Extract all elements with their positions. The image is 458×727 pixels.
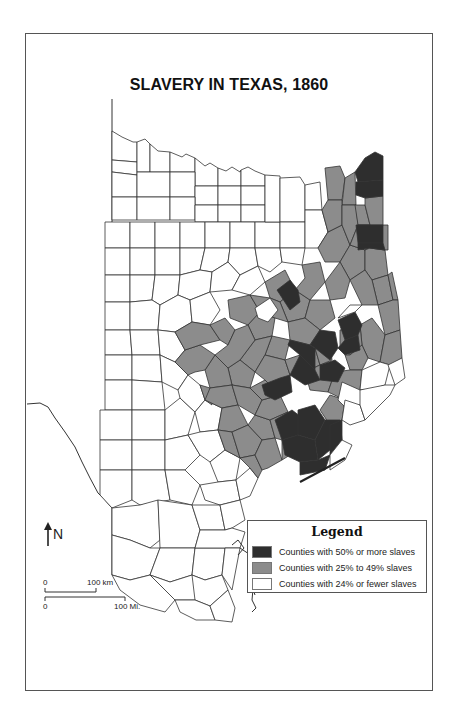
- legend-title: Legend: [248, 524, 426, 539]
- scale-km-end: 100 km: [87, 578, 113, 587]
- scale-mi-zero: 0: [43, 602, 47, 611]
- legend-label-mid: Counties with 25% to 49% slaves: [279, 563, 412, 573]
- legend-item-mid: Counties with 25% to 49% slaves: [252, 561, 412, 574]
- legend-item-low: Counties with 24% or fewer slaves: [252, 577, 417, 590]
- scale-bar-lines: [0, 0, 458, 727]
- legend-swatch-mid: [252, 562, 272, 574]
- legend-swatch-low: [252, 578, 272, 590]
- scale-km-zero: 0: [43, 578, 47, 587]
- legend-label-low: Counties with 24% or fewer slaves: [279, 579, 417, 589]
- scale-mi-end: 100 Mi.: [114, 602, 140, 611]
- legend: Legend Counties with 50% or more slaves …: [247, 520, 427, 593]
- legend-swatch-high: [252, 546, 272, 558]
- legend-label-high: Counties with 50% or more slaves: [279, 547, 415, 557]
- legend-item-high: Counties with 50% or more slaves: [252, 545, 415, 558]
